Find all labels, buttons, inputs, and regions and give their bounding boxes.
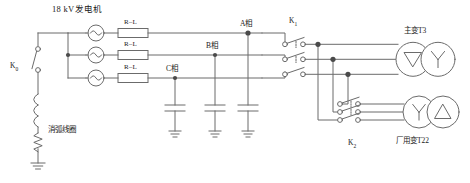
circuit-diagram-canvas: 18 kV发电机 R–L R–L R–L A相 B相 C相 K0 K1 K2 消…: [0, 0, 470, 183]
k1-pole2-terminal-in: [283, 57, 288, 62]
rl-block-phase-b: [118, 51, 148, 60]
main-transformer-t3-label: 主变T3: [404, 27, 426, 35]
rl-label-phase-b: R–L: [124, 41, 137, 48]
capacitor-branch-a: [238, 33, 258, 131]
ground-symbol-coil: [31, 163, 45, 169]
sine-wave-glyph-b: [91, 53, 102, 57]
k2-pole3-terminal-out: [356, 118, 361, 123]
k0-label: K0: [10, 62, 18, 72]
phase-label-a: A相: [240, 20, 252, 28]
coil-loop-2: [34, 105, 39, 116]
rl-label-phase-a: R–L: [124, 19, 137, 26]
phase-a-feeder: [86, 25, 262, 41]
k1-pole1-terminal-in: [283, 42, 288, 47]
arc-suppression-coil-label: 消弧线圈: [48, 126, 76, 134]
ground-symbol-cap-b: [209, 131, 221, 137]
junction-dot-t3-b: [330, 57, 335, 62]
sine-wave-glyph-a: [91, 31, 102, 35]
junction-dot-cap-a: [245, 30, 250, 35]
junction-dot-t3-a: [315, 42, 320, 47]
k1-input-routing: [262, 33, 285, 78]
junction-dot-t3-c: [345, 72, 350, 77]
phase-label-c: C相: [166, 65, 178, 73]
main-transformer-t3-symbol: [396, 42, 455, 76]
t22-winding-right-circle: [427, 96, 459, 128]
k2-label-subscript: 2: [353, 143, 356, 149]
k0-terminal-lower: [36, 68, 41, 73]
k1-pole1-terminal-out: [301, 42, 306, 47]
k0-switch[interactable]: [32, 33, 68, 72]
coil-loop-3: [34, 116, 39, 127]
k1-label-subscript: 1: [294, 21, 297, 27]
k0-terminal-upper: [36, 47, 41, 52]
k1-pole3-terminal-in: [283, 72, 288, 77]
k2-pole1-terminal-in: [338, 102, 343, 107]
k1-pole3-terminal-out: [301, 72, 306, 77]
junction-dot-cap-b: [213, 53, 217, 57]
k2-input-routing: [318, 44, 348, 120]
phase-label-b: B相: [206, 42, 218, 50]
k1-output-bus: [305, 44, 398, 74]
k1-pole2-terminal-out: [301, 57, 306, 62]
k2-switch[interactable]: [338, 97, 361, 122]
station-service-transformer-t22-label: 厂用变T22: [396, 137, 429, 145]
diagram-title: 18 kV发电机: [52, 5, 102, 14]
schematic-drawing: [0, 0, 470, 183]
ground-symbol-cap-a: [242, 131, 254, 137]
junction-dot-neutral: [66, 53, 70, 57]
sine-wave-glyph-c: [91, 76, 102, 80]
capacitor-branch-b: [205, 55, 225, 131]
junction-dot-cap-c: [173, 76, 177, 80]
capacitor-branch-c: [165, 78, 185, 131]
k1-label: K1: [289, 17, 297, 27]
k0-blade: [32, 51, 37, 68]
rl-block-phase-a: [118, 29, 148, 38]
rl-block-phase-c: [118, 74, 148, 83]
k2-pole2-terminal-in: [338, 110, 343, 115]
coil-loop-1: [34, 94, 39, 105]
k0-label-subscript: 0: [15, 66, 18, 72]
rl-label-phase-c: R–L: [124, 64, 137, 71]
k1-switch[interactable]: [283, 38, 306, 77]
station-service-transformer-t22-symbol: [403, 96, 459, 128]
generator-neutral-bus: [68, 33, 86, 78]
ground-symbol-cap-c: [169, 131, 181, 137]
phase-b-feeder: [86, 47, 262, 63]
arc-suppression-coil: [34, 72, 43, 163]
k2-output-bus: [360, 104, 404, 120]
k2-label: K2: [348, 139, 356, 149]
k2-pole3-terminal-in: [338, 118, 343, 123]
